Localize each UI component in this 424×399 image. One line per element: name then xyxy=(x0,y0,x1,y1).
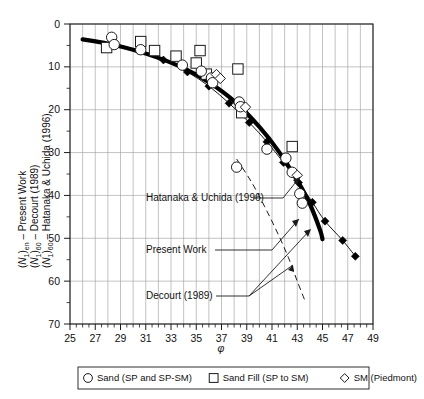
legend-item-label: Sand (SP and SP-SM) xyxy=(97,372,192,383)
x-tick-label: 47 xyxy=(342,332,354,344)
legend-item-label: SM (Piedmont) xyxy=(354,372,417,383)
marker-open-circle xyxy=(109,39,119,49)
x-tick-label: 41 xyxy=(266,332,278,344)
marker-open-square xyxy=(209,374,218,383)
y-tick-label: 70 xyxy=(48,318,60,330)
marker-open-circle xyxy=(136,45,146,55)
marker-open-circle xyxy=(231,162,241,172)
chart-root: 25272931333537394143454749 0102030405060… xyxy=(0,0,424,399)
x-tick-label: 35 xyxy=(190,332,202,344)
annotation-decourt: Decourt (1989) xyxy=(146,290,213,301)
marker-open-circle xyxy=(295,189,305,199)
y-axis-title-line3: (N1)60 – Hatanaka & Uchida (1996) xyxy=(41,113,54,268)
x-tick-label: 25 xyxy=(64,332,76,344)
marker-open-circle xyxy=(196,66,206,76)
x-tick-label: 33 xyxy=(165,332,177,344)
marker-open-circle xyxy=(262,144,272,154)
marker-open-circle xyxy=(297,198,307,208)
marker-open-square xyxy=(171,51,181,61)
y-tick-label: 60 xyxy=(48,275,60,287)
annotation-present-work: Present Work xyxy=(146,244,207,255)
x-tick-label: 29 xyxy=(115,332,127,344)
y-axis-title-line2: (N1)60 – Decourt (1989) xyxy=(29,165,42,268)
x-tick-label: 27 xyxy=(89,332,101,344)
marker-open-circle xyxy=(177,60,187,70)
y-axis-title: (N1)en – Present Work (N1)60 – Decourt (… xyxy=(17,113,54,268)
marker-open-circle xyxy=(281,153,291,163)
y-axis-ticks xyxy=(64,24,70,324)
legend-items: Sand (SP and SP-SM)Sand Fill (SP to SM)S… xyxy=(84,372,417,383)
y-tick-label: 10 xyxy=(48,60,60,72)
marker-open-square xyxy=(195,45,205,55)
spt-phi-correlation-chart: 25272931333537394143454749 0102030405060… xyxy=(0,0,424,399)
x-axis-title: φ xyxy=(218,342,225,354)
marker-open-square xyxy=(149,45,159,55)
marker-open-square xyxy=(233,64,243,74)
x-tick-label: 49 xyxy=(367,332,379,344)
annotation-hatanaka-uchida: Hatanaka & Uchida (1996) xyxy=(146,192,264,203)
marker-open-square xyxy=(287,141,297,151)
legend-item-label: Sand Fill (SP to SM) xyxy=(223,372,309,383)
marker-open-circle xyxy=(84,374,93,383)
x-tick-label: 43 xyxy=(291,332,303,344)
legend: Sand (SP and SP-SM)Sand Fill (SP to SM)S… xyxy=(78,367,417,389)
x-tick-label: 45 xyxy=(317,332,329,344)
x-tick-label: 31 xyxy=(140,332,152,344)
y-tick-label: 0 xyxy=(54,18,60,30)
x-tick-label: 39 xyxy=(241,332,253,344)
y-axis-title-line1: (N1)en – Present Work xyxy=(17,170,30,268)
x-axis-ticks xyxy=(70,324,373,330)
